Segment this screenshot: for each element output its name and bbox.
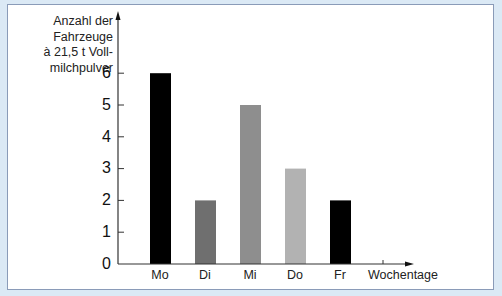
bars-group bbox=[150, 73, 351, 264]
y-axis-title-line-2: Fahrzeuge bbox=[30, 30, 113, 46]
x-tick-label-fr: Fr bbox=[320, 268, 360, 282]
y-tick-label-5: 5 bbox=[91, 97, 111, 113]
bar-mo bbox=[150, 73, 171, 264]
x-tick-label-mi: Mi bbox=[230, 268, 270, 282]
x-tick-label-do: Do bbox=[275, 268, 315, 282]
y-tick-label-6: 6 bbox=[91, 65, 111, 81]
y-axis-arrow-icon bbox=[116, 11, 121, 20]
x-tick-label-mo: Mo bbox=[140, 268, 180, 282]
y-axis-title-line-3: à 21,5 t Voll- bbox=[30, 45, 113, 61]
bar-di bbox=[195, 200, 216, 264]
x-axis-title: Wochentage bbox=[368, 268, 438, 282]
y-tick-label-0: 0 bbox=[91, 256, 111, 272]
x-axis-arrow-icon bbox=[405, 262, 414, 267]
y-ticks-group bbox=[118, 73, 124, 232]
y-axis-title-line-1: Anzahl der bbox=[30, 14, 113, 30]
x-tick-label-di: Di bbox=[185, 268, 225, 282]
bar-fr bbox=[330, 200, 351, 264]
y-tick-label-2: 2 bbox=[91, 192, 111, 208]
bar-mi bbox=[240, 105, 261, 264]
y-tick-label-4: 4 bbox=[91, 129, 111, 145]
y-tick-label-3: 3 bbox=[91, 160, 111, 176]
bar-do bbox=[285, 169, 306, 264]
y-tick-label-1: 1 bbox=[91, 224, 111, 240]
